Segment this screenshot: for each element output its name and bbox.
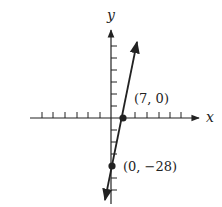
point-y-intercept <box>108 162 115 169</box>
graph-line <box>105 42 137 200</box>
y-axis-label: y <box>106 7 116 23</box>
x-axis-label: x <box>206 109 214 125</box>
point-label-x-intercept: (7, 0) <box>134 91 169 106</box>
graph-figure: y x (7, 0) (0, −28) <box>0 0 222 207</box>
point-x-intercept <box>119 114 126 121</box>
point-label-y-intercept: (0, −28) <box>123 159 177 174</box>
